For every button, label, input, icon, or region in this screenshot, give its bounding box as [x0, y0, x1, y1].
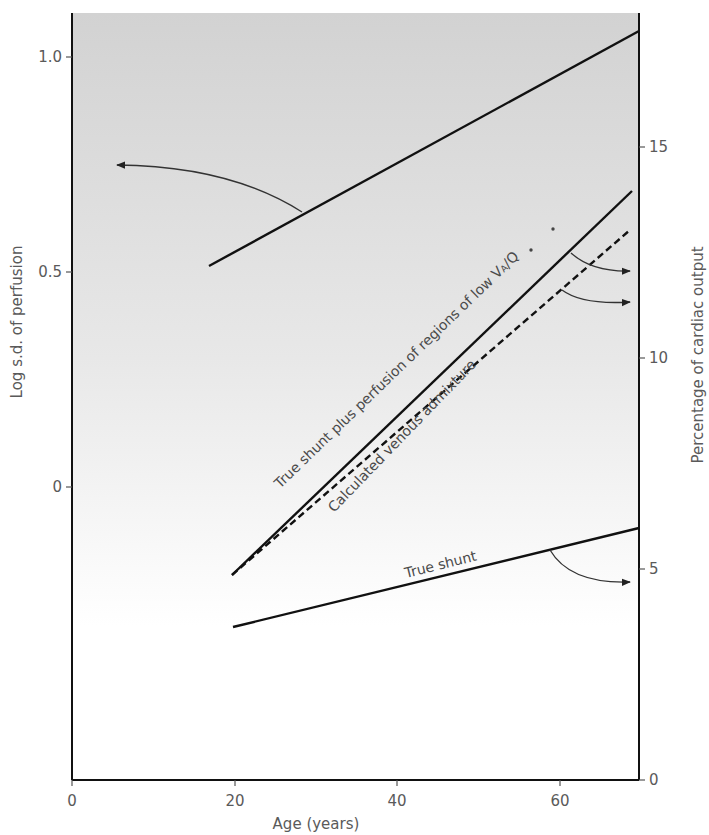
x-tick-label: 20 — [225, 792, 244, 810]
left-axis-title: Log s.d. of perfusion — [8, 246, 26, 399]
x-tick-label: 60 — [550, 792, 569, 810]
right-tick-label: 0 — [649, 771, 659, 789]
right-tick-label: 10 — [649, 349, 668, 367]
right-tick-label: 5 — [649, 560, 659, 578]
dot-over-v — [529, 248, 532, 251]
plot-area — [72, 13, 639, 780]
left-tick-label: 0.5 — [38, 263, 62, 281]
left-tick-label: 1.0 — [38, 48, 62, 66]
chart: 1.0 0.5 0 15 10 5 0 0 20 40 60 Age (year… — [0, 0, 709, 835]
dot-over-q — [551, 227, 554, 230]
x-tick-label: 40 — [387, 792, 406, 810]
x-axis-title: Age (years) — [273, 815, 360, 833]
right-tick-label: 15 — [649, 138, 668, 156]
right-axis-title: Percentage of cardiac output — [689, 246, 707, 463]
left-tick-label: 0 — [52, 478, 62, 496]
x-tick-label: 0 — [67, 792, 77, 810]
